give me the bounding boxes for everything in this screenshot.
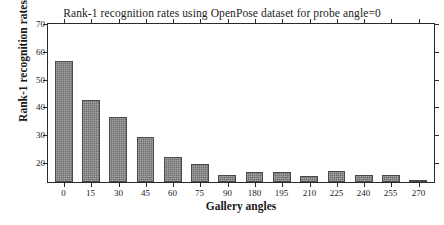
- x-tick-top: [173, 19, 174, 24]
- bar-slot: [323, 24, 350, 182]
- chart-title: Rank-1 recognition rates using OpenPose …: [0, 7, 444, 19]
- bar-slot: [132, 24, 159, 182]
- x-tick: [91, 182, 92, 187]
- bar-slot: [105, 24, 132, 182]
- bar-series: [48, 24, 434, 182]
- x-tick: [364, 182, 365, 187]
- bar[interactable]: [137, 137, 155, 182]
- bar[interactable]: [246, 172, 264, 182]
- x-tick-label: 225: [330, 189, 344, 198]
- x-tick-label: 0: [61, 189, 66, 198]
- bar-slot: [50, 24, 77, 182]
- x-tick-label: 255: [384, 189, 398, 198]
- bar-slot: [77, 24, 104, 182]
- x-tick-label: 30: [114, 189, 123, 198]
- bar-slot: [350, 24, 377, 182]
- x-tick: [282, 182, 283, 187]
- x-tick-top: [91, 19, 92, 24]
- y-axis-label: Rank-1 recognition rates: [17, 0, 29, 141]
- x-tick-top: [419, 19, 420, 24]
- bar[interactable]: [328, 171, 346, 182]
- y-tick-right: [434, 52, 439, 53]
- y-tick-right: [434, 107, 439, 108]
- y-tick-right: [434, 135, 439, 136]
- x-tick-label: 270: [412, 189, 426, 198]
- x-tick: [310, 182, 311, 187]
- x-tick-label: 45: [141, 189, 150, 198]
- bar-slot: [186, 24, 213, 182]
- y-tick-right: [434, 24, 439, 25]
- bar[interactable]: [82, 100, 100, 182]
- bar[interactable]: [191, 164, 209, 182]
- x-tick-label: 195: [275, 189, 289, 198]
- bar[interactable]: [164, 157, 182, 182]
- x-tick-top: [391, 19, 392, 24]
- x-tick-label: 90: [223, 189, 232, 198]
- x-tick-label: 60: [168, 189, 177, 198]
- bar-slot: [241, 24, 268, 182]
- x-tick-top: [255, 19, 256, 24]
- x-tick-label: 75: [195, 189, 204, 198]
- bar-slot: [405, 24, 432, 182]
- x-tick: [119, 182, 120, 187]
- x-tick-top: [364, 19, 365, 24]
- bar[interactable]: [382, 175, 400, 182]
- bar-slot: [377, 24, 404, 182]
- bar-slot: [268, 24, 295, 182]
- y-tick-right: [434, 80, 439, 81]
- plot-area: 203040506070 015304560759018019521022524…: [47, 23, 435, 183]
- x-tick-label: 210: [303, 189, 317, 198]
- bar-slot: [214, 24, 241, 182]
- bar[interactable]: [55, 61, 73, 182]
- x-tick: [419, 182, 420, 187]
- y-tick-label: 50: [36, 75, 45, 84]
- x-tick-top: [119, 19, 120, 24]
- y-tick-label: 20: [36, 158, 45, 167]
- x-tick: [64, 182, 65, 187]
- x-tick-label: 240: [357, 189, 371, 198]
- y-tick-label: 60: [36, 47, 45, 56]
- x-tick-label: 15: [86, 189, 95, 198]
- bar-slot: [159, 24, 186, 182]
- x-tick: [146, 182, 147, 187]
- x-tick: [255, 182, 256, 187]
- x-tick-top: [282, 19, 283, 24]
- x-tick-top: [228, 19, 229, 24]
- x-tick-label: 180: [248, 189, 262, 198]
- x-tick-top: [64, 19, 65, 24]
- y-tick-label: 70: [36, 20, 45, 29]
- x-tick: [337, 182, 338, 187]
- y-tick-label: 40: [36, 103, 45, 112]
- bar[interactable]: [355, 175, 373, 182]
- y-tick-label: 30: [36, 131, 45, 140]
- bar[interactable]: [273, 172, 291, 182]
- figure: Rank-1 recognition rates using OpenPose …: [0, 0, 444, 225]
- x-tick-top: [337, 19, 338, 24]
- x-tick-top: [310, 19, 311, 24]
- x-tick-top: [146, 19, 147, 24]
- x-axis-label: Gallery angles: [47, 200, 435, 212]
- x-tick: [200, 182, 201, 187]
- y-tick-right: [434, 163, 439, 164]
- x-tick: [391, 182, 392, 187]
- bar[interactable]: [218, 175, 236, 182]
- x-tick: [228, 182, 229, 187]
- x-tick-top: [200, 19, 201, 24]
- x-tick: [173, 182, 174, 187]
- bar[interactable]: [109, 117, 127, 182]
- bar-slot: [296, 24, 323, 182]
